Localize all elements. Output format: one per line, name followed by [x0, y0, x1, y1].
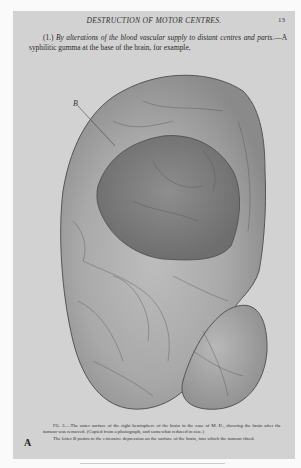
- paragraph-italic-heading: By alterations of the blood vascular sup…: [56, 33, 274, 42]
- page-number: 13: [278, 16, 285, 24]
- paragraph-lead: (1.): [43, 33, 53, 42]
- book-page: DESTRUCTION OF MOTOR CENTRES. 13 (1.) By…: [13, 11, 295, 459]
- plate-letter: A: [24, 437, 31, 448]
- bottom-rule: [80, 463, 225, 464]
- brain-illustration: B: [53, 61, 283, 416]
- body-paragraph: (1.) By alterations of the blood vascula…: [29, 33, 287, 53]
- running-head: DESTRUCTION OF MOTOR CENTRES.: [13, 16, 295, 25]
- brain-engraving-icon: B: [53, 61, 283, 416]
- figure-caption: Fig. 3.—The outer surface of the right h…: [43, 423, 281, 442]
- caption-fig-label: Fig. 3.: [53, 423, 66, 428]
- caption-line-2: The letter B points to the extensive dep…: [53, 436, 255, 441]
- caption-line-1: —The outer surface of the right hemisphe…: [43, 423, 281, 434]
- figure-label-b: B: [73, 99, 78, 108]
